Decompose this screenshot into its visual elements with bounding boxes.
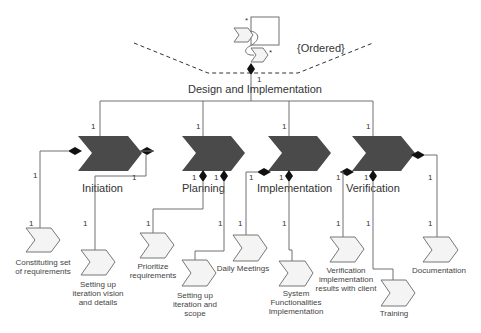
ordered-constraint: {Ordered} (297, 42, 345, 54)
task-verification-client: Verificationimplementationresults with c… (316, 237, 378, 293)
svg-text:1: 1 (428, 219, 433, 228)
svg-text:1: 1 (336, 173, 341, 182)
task-daily-meetings: Daily Meetings (217, 235, 269, 273)
svg-text:1: 1 (366, 122, 371, 131)
task-prioritize-requirements: Prioritizerequirements (130, 233, 177, 280)
iteration-icon: * * (234, 16, 279, 62)
task-training: Training (380, 280, 415, 318)
svg-text:1: 1 (33, 171, 38, 180)
svg-text:Prioritizerequirements: Prioritizerequirements (130, 262, 177, 280)
svg-text:1: 1 (428, 173, 433, 182)
svg-text:1: 1 (91, 122, 96, 131)
svg-text:Daily Meetings: Daily Meetings (217, 264, 269, 273)
svg-text:1: 1 (282, 219, 287, 228)
task-iteration-vision: Setting upiteration visionand details (72, 250, 123, 307)
phase-label-initiation: Initiation (82, 182, 123, 194)
svg-text:1: 1 (192, 173, 197, 182)
task-constituting-requirements: 1 Constituting setof requirements (15, 219, 71, 276)
svg-text:1: 1 (218, 219, 223, 228)
svg-text:1: 1 (364, 173, 369, 182)
svg-text:1: 1 (249, 173, 254, 182)
svg-text:Constituting setof requirement: Constituting setof requirements (15, 258, 71, 276)
root-label: Design and Implementation (188, 83, 322, 95)
svg-text:1: 1 (279, 173, 284, 182)
svg-text:1: 1 (336, 219, 341, 228)
svg-text:1: 1 (214, 173, 219, 182)
svg-text:Documentation: Documentation (412, 266, 466, 275)
task-iteration-scope: Setting upiteration andscope (173, 260, 217, 318)
svg-text:1: 1 (146, 219, 151, 228)
svg-text:Training: Training (380, 309, 409, 318)
svg-text:1: 1 (282, 122, 287, 131)
svg-text:1: 1 (366, 219, 371, 228)
svg-text:Verificationimplementationresu: Verificationimplementationresults with c… (316, 266, 378, 293)
svg-text:1: 1 (83, 219, 88, 228)
svg-text:1: 1 (238, 219, 243, 228)
svg-text:Setting upiteration visionand: Setting upiteration visionand details (72, 280, 123, 307)
svg-text:1: 1 (132, 173, 137, 182)
svg-text:Setting upiteration andscope: Setting upiteration andscope (173, 291, 217, 318)
icon-mult-bottom: * (269, 48, 272, 57)
svg-text:SystemFunctionalitiesImplement: SystemFunctionalitiesImplementation (269, 289, 324, 316)
diagram-canvas: * * {Ordered} 1 Design and Implementatio… (0, 0, 481, 333)
icon-mult-top: * (245, 16, 248, 25)
task-documentation: Documentation (412, 237, 466, 275)
svg-text:1: 1 (196, 122, 201, 131)
svg-text:1: 1 (29, 219, 34, 228)
phase-label-implementation: Implementation (257, 182, 332, 194)
